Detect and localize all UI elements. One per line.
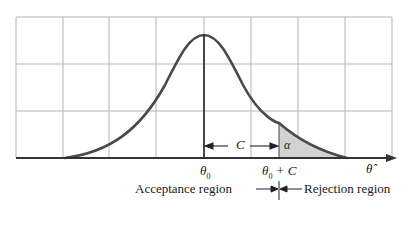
theta-hat-symbol: θ̂ bbox=[366, 161, 372, 176]
c-label-text: C bbox=[236, 137, 245, 152]
critical-theta-subscript: 0 bbox=[268, 172, 272, 181]
theta-hat-axis-label: θ̂ bbox=[366, 161, 372, 177]
alpha-label-text: α bbox=[284, 138, 290, 152]
critical-plus-c: + C bbox=[276, 163, 297, 178]
c-distance-label: C bbox=[236, 137, 245, 153]
rejection-region-label: Rejection region bbox=[304, 181, 390, 197]
theta0-subscript: 0 bbox=[206, 172, 210, 181]
critical-value-tick-label: θ0 + C bbox=[262, 163, 296, 181]
rejection-region-text: Rejection region bbox=[304, 181, 390, 196]
acceptance-region-label: Acceptance region bbox=[135, 181, 232, 197]
normal-curve bbox=[65, 35, 347, 158]
theta0-tick-label: θ0 bbox=[200, 163, 210, 181]
region-divider bbox=[256, 181, 302, 200]
acceptance-region-text: Acceptance region bbox=[135, 181, 232, 196]
alpha-label: α bbox=[284, 138, 290, 153]
